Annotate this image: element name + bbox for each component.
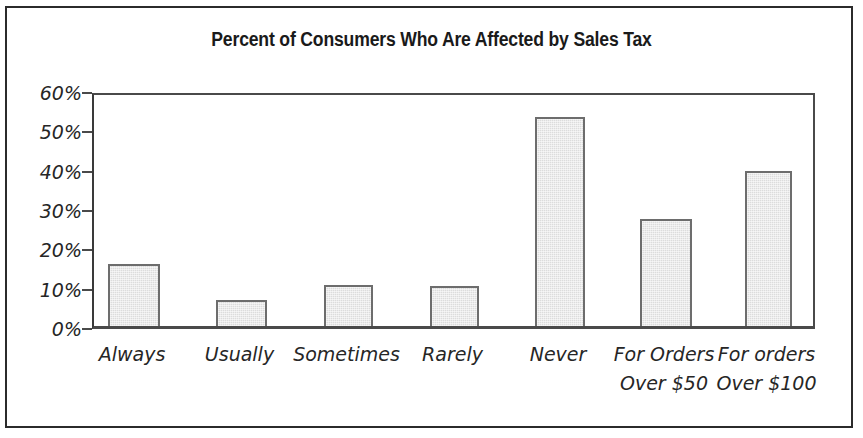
bar-never [535, 117, 585, 326]
bar-sometimes [324, 285, 373, 326]
y-axis-tick-label: 60% [8, 82, 82, 104]
bar-rarely [430, 286, 479, 326]
bar-always [108, 264, 160, 326]
bar-series [94, 95, 813, 326]
plot-area [92, 93, 815, 329]
bar-for-orders-over-50 [640, 219, 692, 326]
y-axis-tick-label: 20% [8, 239, 82, 261]
chart-figure: Percent of Consumers Who Are Affected by… [0, 0, 863, 438]
y-axis-tick-label: 50% [8, 121, 82, 143]
x-axis-tick-label: For orders Over $100 [692, 340, 842, 398]
bar-for-orders-over-100 [745, 171, 792, 326]
chart-title: Percent of Consumers Who Are Affected by… [52, 28, 811, 51]
y-axis-tick-label: 0% [8, 318, 82, 340]
y-axis-tick-label: 30% [8, 200, 82, 222]
y-axis-tick-label: 10% [8, 279, 82, 301]
y-axis-tick-label: 40% [8, 161, 82, 183]
bar-usually [216, 300, 267, 326]
